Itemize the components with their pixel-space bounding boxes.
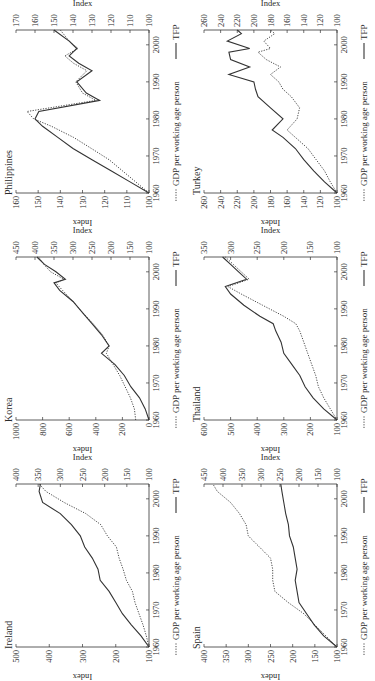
right-axis-tick-label: 120	[315, 14, 325, 27]
left-axis-tick-label: 350	[221, 650, 231, 663]
left-axis-label: Index	[72, 672, 92, 681]
right-axis-tick-label: 160	[30, 14, 40, 27]
right-axis-tick-label: 150	[305, 241, 315, 254]
left-axis-tick-label: 200	[111, 650, 121, 663]
left-axis-tick-label: 600	[199, 423, 209, 436]
left-axis-tick-label: 140	[55, 196, 65, 209]
left-axis-tick-label: 200	[288, 650, 298, 663]
left-axis-tick-label: 240	[216, 196, 226, 209]
x-tick-label: 1980	[151, 564, 161, 581]
left-axis-tick-label: 100	[332, 196, 342, 209]
left-axis-tick-label: 400	[252, 423, 262, 436]
x-tick-label: 1970	[339, 601, 349, 618]
chart-svg: Philippines19601970198019902000100110120…	[0, 0, 187, 227]
left-axis-tick-label: 160	[282, 196, 292, 209]
right-axis-tick-label: 170	[11, 14, 21, 27]
right-axis-tick-label: 250	[87, 241, 97, 254]
left-axis-label: Index	[260, 672, 280, 681]
right-axis-tick-label: 400	[30, 241, 40, 254]
legend-gdp-label: GDP per working age person	[171, 81, 181, 186]
right-axis-tick-label: 250	[78, 468, 88, 481]
right-axis-tick-label: 260	[199, 14, 209, 27]
left-axis-tick-label: 250	[266, 650, 276, 663]
right-axis-tick-label: 150	[313, 468, 323, 481]
chart-svg: Spain19601970198019902000100150200250300…	[188, 454, 375, 681]
right-axis-tick-label: 160	[282, 14, 292, 27]
tfp-line	[223, 257, 337, 420]
right-axis-tick-label: 100	[144, 468, 154, 481]
right-axis-tick-label: 350	[199, 241, 209, 254]
left-axis-tick-label: 100	[144, 650, 154, 663]
gdp-line	[27, 30, 149, 193]
right-axis-tick-label: 350	[33, 468, 43, 481]
gdp-line	[39, 484, 149, 647]
right-axis-tick-label: 200	[249, 14, 259, 27]
legend-tfp-label: TFP	[359, 478, 369, 494]
right-axis-tick-label: 250	[252, 241, 262, 254]
chart-title: Spain	[191, 626, 202, 649]
right-axis-tick-label: 100	[332, 14, 342, 27]
left-axis-tick-label: 400	[44, 650, 54, 663]
left-axis-tick-label: 500	[226, 423, 236, 436]
tfp-line	[35, 30, 149, 193]
right-axis-tick-label: 150	[122, 468, 132, 481]
right-axis-tick-label: 100	[332, 468, 342, 481]
x-tick-label: 1970	[339, 374, 349, 391]
chart-title: Turkey	[191, 166, 202, 195]
x-tick-label: 2000	[151, 263, 161, 280]
x-tick-label: 1990	[151, 527, 161, 544]
right-axis-tick-label: 300	[256, 468, 266, 481]
right-axis-tick-label: 350	[237, 468, 247, 481]
chart-svg: Thailand19601970198019902000100200300400…	[188, 227, 375, 454]
tfp-line	[37, 257, 149, 420]
gdp-line	[39, 257, 136, 420]
right-axis-tick-label: 240	[216, 14, 226, 27]
x-tick-label: 2000	[151, 36, 161, 53]
right-axis-tick-label: 400	[218, 468, 228, 481]
left-axis-tick-label: 400	[199, 650, 209, 663]
x-tick-label: 1980	[151, 337, 161, 354]
left-axis-tick-label: 200	[305, 423, 315, 436]
left-axis-tick-label: 220	[232, 196, 242, 209]
tfp-line	[227, 30, 337, 193]
left-axis-label: Index	[72, 218, 92, 227]
right-axis-tick-label: 450	[199, 468, 209, 481]
chart-svg: Ireland196019701980199020001002003004005…	[0, 454, 187, 681]
right-axis-label: Index	[261, 454, 281, 462]
right-axis-tick-label: 140	[68, 14, 78, 27]
left-axis-tick-label: 200	[117, 423, 127, 436]
right-axis-tick-label: 220	[232, 14, 242, 27]
left-axis-tick-label: 300	[78, 650, 88, 663]
right-axis-tick-label: 350	[49, 241, 59, 254]
gdp-line	[258, 30, 337, 193]
left-axis-tick-label: 120	[315, 196, 325, 209]
chart-title: Philippines	[3, 150, 14, 195]
chart-panel-turkey: Turkey1960197019801990200010012014016018…	[188, 0, 375, 227]
right-axis-tick-label: 100	[332, 241, 342, 254]
right-axis-tick-label: 150	[49, 14, 59, 27]
chart-title: Ireland	[3, 621, 14, 649]
chart-title: Thailand	[191, 386, 202, 422]
legend-tfp-label: TFP	[171, 251, 181, 267]
x-tick-label: 1980	[339, 110, 349, 127]
left-axis-tick-label: 120	[100, 196, 110, 209]
left-axis-tick-label: 600	[64, 423, 74, 436]
right-axis-tick-label: 200	[106, 241, 116, 254]
x-tick-label: 1970	[151, 147, 161, 164]
chart-panel-ireland: Ireland196019701980199020001002003004005…	[0, 454, 187, 681]
right-axis-tick-label: 200	[100, 468, 110, 481]
left-axis-tick-label: 160	[11, 196, 21, 209]
chart-panel-thailand: Thailand19601970198019902000100200300400…	[188, 227, 375, 454]
x-tick-label: 1990	[339, 300, 349, 317]
left-axis-tick-label: 1000	[11, 423, 21, 440]
x-tick-label: 2000	[339, 36, 349, 53]
left-axis-label: Index	[260, 445, 280, 454]
left-axis-tick-label: 180	[266, 196, 276, 209]
right-axis-label: Index	[73, 227, 93, 235]
gdp-line	[225, 257, 337, 420]
right-axis-tick-label: 100	[144, 241, 154, 254]
right-axis-label: Index	[261, 227, 281, 235]
right-axis-tick-label: 400	[11, 468, 21, 481]
gdp-line	[213, 484, 337, 647]
right-axis-tick-label: 200	[294, 468, 304, 481]
